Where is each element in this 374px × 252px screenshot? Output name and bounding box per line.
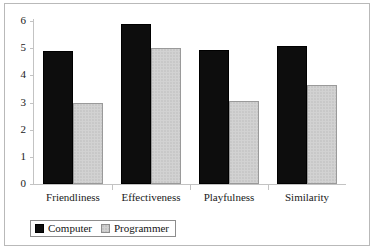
bar-computer-playfulness: [199, 50, 229, 184]
y-tick-mark: [30, 184, 34, 185]
bar-programmer-friendliness: [73, 103, 103, 185]
bar-computer-effectiveness: [121, 24, 151, 184]
legend-swatch-computer-icon: [35, 224, 44, 233]
bar-programmer-effectiveness: [151, 48, 181, 184]
category-label-playfulness: Playfulness: [190, 191, 268, 203]
bar-programmer-playfulness: [229, 101, 259, 184]
y-tick-label: 6: [12, 15, 26, 26]
x-tick-mark: [190, 185, 191, 190]
legend-swatch-programmer-icon: [101, 224, 110, 233]
y-tick-mark: [30, 103, 34, 104]
y-tick-label: 5: [12, 42, 26, 53]
category-label-friendliness: Friendliness: [34, 191, 112, 203]
y-tick-mark: [30, 21, 34, 22]
legend-label: Programmer: [114, 223, 169, 234]
y-tick-mark: [30, 157, 34, 158]
legend-entry-computer[interactable]: Computer: [35, 223, 92, 234]
y-tick-mark: [30, 75, 34, 76]
bar-computer-similarity: [277, 46, 307, 184]
legend-label: Computer: [48, 223, 92, 234]
bar-computer-friendliness: [43, 51, 73, 184]
bar-programmer-similarity: [307, 85, 337, 184]
y-tick-label: 4: [12, 69, 26, 80]
plot-area: 0123456 FriendlinessEffectivenessPlayful…: [0, 0, 374, 252]
chart-legend: ComputerProgrammer: [30, 220, 176, 237]
y-tick-mark: [30, 48, 34, 49]
category-label-similarity: Similarity: [268, 191, 346, 203]
y-tick-label: 2: [12, 124, 26, 135]
x-tick-mark: [112, 185, 113, 190]
legend-entry-programmer[interactable]: Programmer: [101, 223, 169, 234]
chart-figure: 0123456 FriendlinessEffectivenessPlayful…: [0, 0, 374, 252]
x-tick-mark: [268, 185, 269, 190]
y-tick-label: 0: [12, 178, 26, 189]
category-label-effectiveness: Effectiveness: [112, 191, 190, 203]
y-tick-label: 3: [12, 97, 26, 108]
y-tick-mark: [30, 130, 34, 131]
y-tick-label: 1: [12, 151, 26, 162]
